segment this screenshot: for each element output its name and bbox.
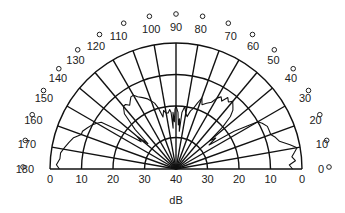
db-tick-label: 30 bbox=[138, 173, 150, 185]
radial-axis-title: dB bbox=[169, 194, 182, 206]
db-tick-label: 20 bbox=[107, 173, 119, 185]
angle-tick-label: 120 bbox=[87, 40, 105, 52]
degree-symbol-icon bbox=[226, 21, 231, 26]
angle-tick-label: 0 bbox=[318, 163, 324, 175]
angle-tick-label: 50 bbox=[267, 54, 279, 66]
angle-tick-label: 80 bbox=[195, 23, 207, 35]
angle-tick-label: 170 bbox=[18, 138, 36, 150]
degree-symbol-icon bbox=[327, 165, 332, 170]
degree-symbol-icon bbox=[272, 48, 277, 53]
angle-tick-label: 30 bbox=[299, 92, 311, 104]
db-tick-label: 0 bbox=[47, 173, 53, 185]
degree-symbol-icon bbox=[57, 66, 62, 71]
angle-tick-label: 20 bbox=[309, 114, 321, 126]
angle-tick-label: 150 bbox=[35, 92, 53, 104]
degree-symbol-icon bbox=[121, 21, 126, 26]
degree-symbol-icon bbox=[200, 14, 205, 19]
angle-tick-label: 140 bbox=[49, 72, 67, 84]
degree-symbol-icon bbox=[174, 12, 179, 17]
degree-symbol-icon bbox=[97, 32, 102, 37]
db-tick-labels: 0102030403020100 bbox=[47, 173, 305, 185]
db-tick-label: 10 bbox=[264, 173, 276, 185]
degree-symbol-icon bbox=[75, 48, 80, 53]
polar-chart: 0102030405060708090100110120130140150160… bbox=[0, 0, 345, 213]
angle-tick-label: 10 bbox=[316, 138, 328, 150]
db-tick-label: 10 bbox=[75, 173, 87, 185]
db-tick-label: 20 bbox=[233, 173, 245, 185]
angle-tick-label: 40 bbox=[285, 72, 297, 84]
db-tick-label: 0 bbox=[299, 173, 305, 185]
db-tick-label: 40 bbox=[170, 173, 182, 185]
degree-symbol-icon bbox=[250, 32, 255, 37]
angle-tick-label: 70 bbox=[225, 30, 237, 42]
degree-symbol-icon bbox=[291, 66, 296, 71]
angle-tick-label: 110 bbox=[110, 30, 128, 42]
angle-tick-label: 90 bbox=[170, 21, 182, 33]
angle-tick-label: 60 bbox=[247, 40, 259, 52]
angle-tick-label: 100 bbox=[142, 23, 160, 35]
degree-symbol-icon bbox=[147, 14, 152, 19]
db-tick-label: 30 bbox=[201, 173, 213, 185]
angle-tick-label: 130 bbox=[66, 54, 84, 66]
